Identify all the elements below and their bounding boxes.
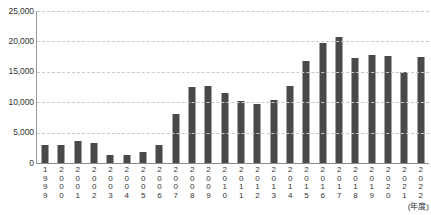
- x-tick-label: 2011: [233, 166, 249, 200]
- bar[interactable]: [189, 87, 196, 163]
- bar[interactable]: [58, 145, 65, 163]
- x-tick-digit: 0: [53, 192, 69, 201]
- x-tick-label: 2022: [413, 166, 429, 200]
- x-tick-label: 2017: [331, 166, 347, 200]
- bar-slot: [37, 11, 53, 163]
- bar[interactable]: [205, 86, 212, 163]
- gridline: [37, 72, 429, 73]
- x-tick-label: 2007: [168, 166, 184, 200]
- y-tick-label: 10,000: [0, 98, 34, 107]
- x-tick-digit: 7: [331, 192, 347, 201]
- bar-slot: [86, 11, 102, 163]
- bar-slot: [413, 11, 429, 163]
- x-tick-digit: 6: [151, 192, 167, 201]
- bar-slot: [233, 11, 249, 163]
- axis-baseline: [37, 163, 429, 164]
- x-tick-label: 2008: [184, 166, 200, 200]
- bar-slot: [282, 11, 298, 163]
- x-tick-label: 2020: [380, 166, 396, 200]
- x-tick-digit: 1: [233, 192, 249, 201]
- x-tick-label: 2001: [70, 166, 86, 200]
- bar-slot: [135, 11, 151, 163]
- bar[interactable]: [401, 72, 408, 163]
- x-axis-unit-label: (年度): [408, 200, 429, 211]
- y-axis: 25,00020,00015,00010,0005,0000: [0, 0, 34, 215]
- bar-slot: [249, 11, 265, 163]
- x-tick-digit: 6: [315, 192, 331, 201]
- gridline: [37, 11, 429, 12]
- x-tick-digit: 0: [217, 192, 233, 201]
- x-tick-digit: 4: [119, 192, 135, 201]
- x-tick-digit: 4: [282, 192, 298, 201]
- bar-slot: [364, 11, 380, 163]
- x-axis: 1999200020012002200320042005200620072008…: [37, 166, 429, 208]
- x-tick-label: 2010: [217, 166, 233, 200]
- x-tick-digit: 8: [347, 192, 363, 201]
- y-tick-label: 0: [0, 159, 34, 168]
- y-tick-label: 5,000: [0, 128, 34, 137]
- bar-slot: [298, 11, 314, 163]
- x-tick-label: 2012: [249, 166, 265, 200]
- gridline: [37, 41, 429, 42]
- plot-area: [37, 11, 429, 163]
- x-tick-digit: 9: [364, 192, 380, 201]
- x-tick-digit: 2: [249, 192, 265, 201]
- bar-slot: [315, 11, 331, 163]
- bar[interactable]: [107, 155, 114, 164]
- x-tick-digit: 9: [200, 192, 216, 201]
- bar-slot: [119, 11, 135, 163]
- bar[interactable]: [221, 93, 228, 163]
- bar[interactable]: [140, 152, 147, 163]
- y-tick-label: 20,000: [0, 37, 34, 46]
- x-tick-label: 2009: [200, 166, 216, 200]
- x-tick-digit: 3: [102, 192, 118, 201]
- bar[interactable]: [303, 61, 310, 163]
- gridline: [37, 102, 429, 103]
- x-tick-digit: 0: [380, 192, 396, 201]
- bar-slot: [380, 11, 396, 163]
- y-tick-label: 15,000: [0, 67, 34, 76]
- gridline: [37, 133, 429, 134]
- x-tick-label: 2002: [86, 166, 102, 200]
- bar-slot: [396, 11, 412, 163]
- x-tick-label: 2003: [102, 166, 118, 200]
- x-tick-digit: 9: [37, 192, 53, 201]
- x-tick-digit: 2: [86, 192, 102, 201]
- x-tick-label: 2021: [396, 166, 412, 200]
- bar-series: [37, 11, 429, 163]
- x-tick-label: 2015: [298, 166, 314, 200]
- x-tick-label: 2006: [151, 166, 167, 200]
- x-tick-digit: 8: [184, 192, 200, 201]
- bar[interactable]: [156, 145, 163, 163]
- x-tick-label: 2000: [53, 166, 69, 200]
- bar-slot: [200, 11, 216, 163]
- y-axis-line: [36, 11, 37, 164]
- x-tick-digit: 5: [298, 192, 314, 201]
- bar[interactable]: [74, 141, 81, 163]
- x-tick-label: 2019: [364, 166, 380, 200]
- bar[interactable]: [91, 143, 98, 163]
- bar-slot: [151, 11, 167, 163]
- bar-slot: [347, 11, 363, 163]
- bar[interactable]: [42, 145, 49, 163]
- x-tick-digit: 3: [266, 192, 282, 201]
- bar-chart: 25,00020,00015,00010,0005,0000 199920002…: [0, 0, 431, 215]
- x-tick-label: 2016: [315, 166, 331, 200]
- bar[interactable]: [172, 114, 179, 163]
- bar[interactable]: [287, 86, 294, 163]
- bar-slot: [331, 11, 347, 163]
- bar-slot: [102, 11, 118, 163]
- x-tick-label: 2013: [266, 166, 282, 200]
- bar-slot: [184, 11, 200, 163]
- x-tick-label: 2014: [282, 166, 298, 200]
- bar[interactable]: [336, 37, 343, 163]
- bar-slot: [70, 11, 86, 163]
- bar-slot: [53, 11, 69, 163]
- x-tick-digit: 7: [168, 192, 184, 201]
- x-tick-digit: 1: [70, 192, 86, 201]
- x-tick-label: 1999: [37, 166, 53, 200]
- x-tick-digit: 5: [135, 192, 151, 201]
- bar-slot: [217, 11, 233, 163]
- bar[interactable]: [123, 155, 130, 163]
- bar[interactable]: [352, 58, 359, 163]
